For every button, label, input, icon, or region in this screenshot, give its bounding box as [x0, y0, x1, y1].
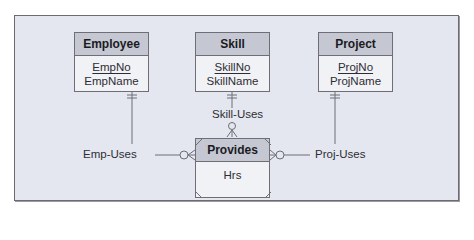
associative-corner-marks — [196, 139, 271, 199]
relationship-label-proj-uses: Proj-Uses — [315, 148, 365, 160]
associative-entity-provides[interactable]: Provides Hrs — [195, 138, 270, 198]
project-primary-key: ProjNo — [319, 60, 392, 74]
entity-employee-name: Employee — [75, 33, 148, 56]
employee-primary-key: EmpNo — [75, 60, 148, 74]
entity-project[interactable]: Project ProjNo ProjName — [318, 32, 393, 92]
skill-uses-zero-icon — [229, 123, 236, 130]
entity-project-name: Project — [319, 33, 392, 56]
employee-attribute: EmpName — [75, 74, 148, 88]
skill-primary-key: SkillNo — [196, 60, 269, 74]
relationship-label-skill-uses: Skill-Uses — [212, 108, 263, 120]
skill-uses-crowfoot-left — [227, 130, 232, 137]
entity-skill[interactable]: Skill SkillNo SkillName — [195, 32, 270, 92]
emp-uses-crowfoot-bottom — [188, 155, 195, 160]
project-attribute: ProjName — [319, 74, 392, 88]
skill-attribute: SkillName — [196, 74, 269, 88]
entity-employee[interactable]: Employee EmpNo EmpName — [74, 32, 149, 92]
emp-uses-crowfoot-top — [188, 150, 195, 155]
emp-uses-zero-icon — [180, 151, 188, 159]
skill-uses-crowfoot-right — [232, 130, 237, 137]
relationship-label-emp-uses: Emp-Uses — [83, 148, 137, 160]
proj-uses-zero-icon — [276, 151, 284, 159]
entity-skill-name: Skill — [196, 33, 269, 56]
